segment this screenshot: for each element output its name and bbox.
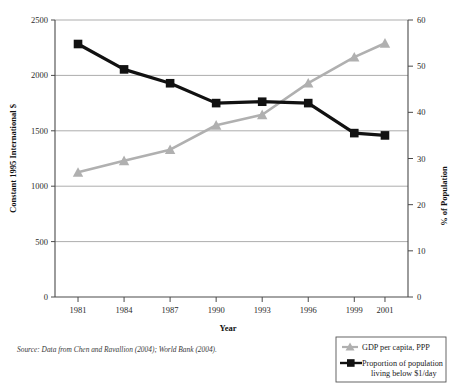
y-axis-title-right: % of Population [439, 166, 449, 226]
data-point-triangle [303, 78, 313, 88]
y-tick-label-left: 500 [35, 237, 48, 247]
x-tick-label: 1996 [300, 305, 317, 315]
y-tick-label-left: 1500 [31, 126, 48, 136]
data-point-square [120, 65, 129, 74]
data-point-square [350, 129, 359, 138]
y-tick-label-right: 60 [417, 15, 426, 25]
data-point-square [166, 79, 175, 88]
data-point-square [212, 99, 221, 108]
data-point-square [74, 40, 83, 49]
y-axis-title-left: Constant 1995 International $ [8, 103, 18, 213]
series-line-0 [78, 43, 385, 172]
legend-label-poverty-line1: Proportion of population [362, 359, 443, 368]
y-tick-label-left: 1000 [31, 181, 48, 191]
x-tick-label: 1993 [254, 305, 271, 315]
x-tick-label: 1990 [208, 305, 225, 315]
y-tick-label-left: 2000 [31, 70, 48, 80]
legend-label-poverty-line2: living below $1/day [371, 369, 437, 378]
chart-canvas: 0500100015002000250001020304050601981198… [0, 0, 459, 388]
y-tick-label-right: 10 [417, 246, 426, 256]
source-note: Source: Data from Chen and Ravallion (20… [17, 345, 217, 354]
data-point-triangle [380, 38, 390, 48]
data-point-square [258, 97, 267, 106]
chart-figure: 0500100015002000250001020304050601981198… [0, 0, 459, 388]
y-tick-label-left: 2500 [31, 15, 48, 25]
y-tick-label-right: 40 [417, 107, 426, 117]
y-tick-label-left: 0 [44, 292, 48, 302]
y-tick-label-right: 50 [417, 61, 426, 71]
y-tick-label-right: 0 [417, 292, 421, 302]
x-tick-label: 1987 [162, 305, 179, 315]
legend-marker-square-icon [347, 359, 355, 367]
x-tick-label: 2001 [376, 305, 393, 315]
x-tick-label: 1984 [116, 305, 134, 315]
data-point-square [381, 131, 390, 140]
x-axis-title: Year [220, 323, 237, 333]
legend-label-gdp: GDP per capita, PPP [362, 343, 430, 352]
x-tick-label: 1981 [70, 305, 87, 315]
data-point-square [304, 99, 313, 108]
y-tick-label-right: 30 [417, 154, 426, 164]
y-tick-label-right: 20 [417, 200, 426, 210]
x-tick-label: 1999 [346, 305, 363, 315]
